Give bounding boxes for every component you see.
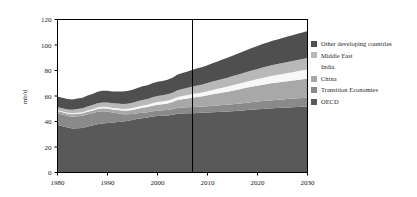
legend-item[interactable]: Transition Economies [311, 84, 417, 96]
legend-swatch-icon [311, 64, 317, 70]
legend-item[interactable]: OECD [311, 96, 417, 108]
legend-item-label: Transition Economies [321, 84, 378, 96]
x-tick-label: 2000 [151, 179, 166, 187]
legend-item-label: OECD [321, 96, 339, 108]
y-tick-label: 20 [45, 144, 53, 152]
legend-swatch-icon [311, 99, 317, 105]
legend-swatch-icon [311, 76, 317, 82]
legend-item[interactable]: Other developing countries [311, 38, 417, 50]
chart-legend: Other developing countriesMiddle EastInd… [311, 38, 417, 108]
legend-item[interactable]: China [311, 73, 417, 85]
legend-swatch-icon [311, 52, 317, 58]
y-tick-label: 120 [41, 16, 52, 24]
y-tick-label: 100 [41, 42, 52, 50]
x-tick-label: 2020 [251, 179, 266, 187]
legend-item-label: India [321, 61, 334, 73]
y-tick-label: 60 [45, 93, 53, 101]
chart-figure: 020406080100120198019902000201020202030 … [0, 0, 417, 197]
legend-item-label: Middle East [321, 50, 353, 62]
x-tick-label: 2030 [301, 179, 316, 187]
legend-item[interactable]: India [311, 61, 417, 73]
y-tick-label: 0 [48, 169, 52, 177]
legend-swatch-icon [311, 41, 317, 47]
y-tick-label: 40 [45, 118, 53, 126]
x-tick-label: 2010 [201, 179, 216, 187]
x-tick-label: 1980 [51, 179, 66, 187]
legend-item-label: China [321, 73, 337, 85]
y-tick-label: 80 [45, 67, 53, 75]
x-tick-label: 1990 [101, 179, 116, 187]
y-axis-title: mb/d [21, 89, 29, 104]
legend-item-label: Other developing countries [321, 38, 392, 50]
legend-swatch-icon [311, 87, 317, 93]
legend-item[interactable]: Middle East [311, 50, 417, 62]
